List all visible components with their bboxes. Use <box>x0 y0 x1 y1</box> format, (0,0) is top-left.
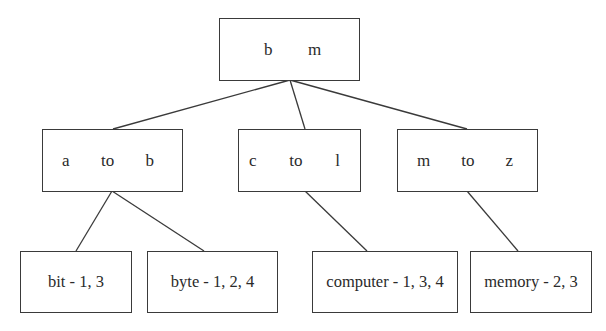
range-sep: to <box>101 152 114 169</box>
edge-root-to-c-l <box>290 80 305 129</box>
range-sep: to <box>461 152 474 169</box>
range-start: m <box>417 152 430 169</box>
edge-root-to-a-b <box>113 80 290 129</box>
internal-node-c-to-l: c to l <box>238 129 361 192</box>
edge-m-z-to-memory <box>467 191 518 251</box>
range-end: b <box>146 152 155 169</box>
leaf-node-computer: computer - 1, 3, 4 <box>312 251 458 313</box>
root-key-2: m <box>308 41 321 58</box>
range-start: c <box>249 152 257 169</box>
range-start: a <box>62 152 70 169</box>
leaf-node-byte: byte - 1, 2, 4 <box>147 251 278 313</box>
root-key-1: b <box>264 41 273 58</box>
edge-root-to-m-z <box>290 80 467 129</box>
leaf-label: byte - 1, 2, 4 <box>171 274 254 291</box>
edge-a-b-to-bit <box>76 191 112 251</box>
range-end: l <box>335 152 340 169</box>
edge-c-l-to-computer <box>305 191 367 251</box>
leaf-node-bit: bit - 1, 3 <box>20 251 132 313</box>
internal-node-a-to-b: a to b <box>42 129 183 192</box>
leaf-node-memory: memory - 2, 3 <box>470 251 592 313</box>
internal-node-m-to-z: m to z <box>397 129 538 192</box>
range-sep: to <box>289 152 302 169</box>
root-node: b m <box>219 18 360 81</box>
range-end: z <box>505 152 513 169</box>
edge-a-b-to-byte <box>112 191 204 251</box>
leaf-label: computer - 1, 3, 4 <box>326 274 443 291</box>
leaf-label: bit - 1, 3 <box>48 274 104 291</box>
leaf-label: memory - 2, 3 <box>484 274 577 291</box>
